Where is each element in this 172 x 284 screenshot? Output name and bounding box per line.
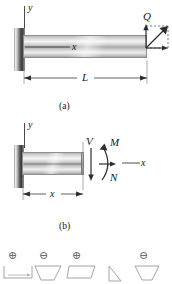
trapezoid-negative-icon: [33, 264, 67, 284]
panel-b-dimension-x: [0, 118, 172, 250]
panel-b: y V M N: [0, 118, 172, 250]
sign-convention-item: ⊕: [2, 250, 36, 284]
sign-convention-item: ⊖: [133, 250, 167, 284]
minus-circle-icon: ⊖: [39, 250, 48, 261]
parallelogram-positive-icon: [66, 264, 100, 284]
panel-b-distance-label: x: [50, 189, 54, 199]
rect-positive-icon: [2, 264, 36, 284]
plus-circle-icon: ⊕: [8, 250, 17, 261]
wedge-plain-icon: [101, 264, 135, 284]
sign-convention-row: ⊕ ⊖ ⊕: [0, 250, 172, 284]
sign-convention-item: [101, 250, 135, 284]
sign-convention-item: ⊖: [33, 250, 67, 284]
panel-a-dimension-L: [0, 0, 172, 118]
panel-a: y x Q: [0, 0, 172, 118]
plus-circle-icon: ⊕: [72, 250, 81, 261]
sign-convention-item: ⊕: [66, 250, 100, 284]
minus-circle-icon: ⊖: [139, 250, 148, 261]
panel-a-length-label: L: [82, 72, 88, 83]
panel-b-caption: (b): [59, 222, 70, 232]
mechanics-figure: y x Q: [0, 0, 172, 284]
trapezoid-negative-2-icon: [133, 264, 167, 284]
panel-a-caption: (a): [59, 102, 70, 112]
